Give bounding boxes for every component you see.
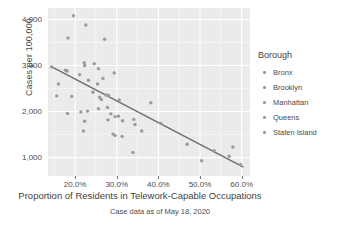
legend-title: Borough	[258, 50, 344, 60]
x-axis-title: Proportion of Residents in Telework-Capa…	[0, 190, 280, 201]
legend-key-dot-icon	[258, 86, 271, 89]
legend-label: Staten Island	[273, 128, 317, 137]
x-tick-label: 40.0%	[147, 180, 170, 189]
legend-label: Manhattan	[273, 98, 308, 107]
x-tick-mark	[242, 176, 243, 179]
legend-item[interactable]: Queens	[258, 110, 344, 125]
x-tick-label: 20.0%	[64, 180, 87, 189]
legend-key-dot-icon	[258, 71, 271, 74]
x-tick-label: 30.0%	[105, 180, 128, 189]
x-tick-mark	[158, 176, 159, 179]
legend-item[interactable]: Brooklyn	[258, 80, 344, 95]
legend: Borough BronxBrooklynManhattanQueensStat…	[258, 50, 344, 140]
legend-key-dot-icon	[258, 116, 271, 119]
legend-items: BronxBrooklynManhattanQueensStaten Islan…	[258, 65, 344, 140]
x-tick-mark	[117, 176, 118, 179]
legend-label: Bronx	[273, 68, 293, 77]
x-tick-mark	[75, 176, 76, 179]
legend-item[interactable]: Staten Island	[258, 125, 344, 140]
legend-label: Queens	[273, 113, 299, 122]
chart-caption: Case data as of May 18, 2020	[0, 207, 320, 216]
x-tick-label: 60.0%	[230, 180, 253, 189]
chart-figure: Cases per 100,000 1,0002,0003,0004,000 2…	[0, 0, 345, 231]
x-tick-label: 50.0%	[189, 180, 212, 189]
legend-key-dot-icon	[258, 101, 271, 104]
x-tick-mark	[200, 176, 201, 179]
legend-label: Brooklyn	[273, 83, 302, 92]
legend-key-dot-icon	[258, 131, 271, 134]
legend-item[interactable]: Bronx	[258, 65, 344, 80]
legend-item[interactable]: Manhattan	[258, 95, 344, 110]
